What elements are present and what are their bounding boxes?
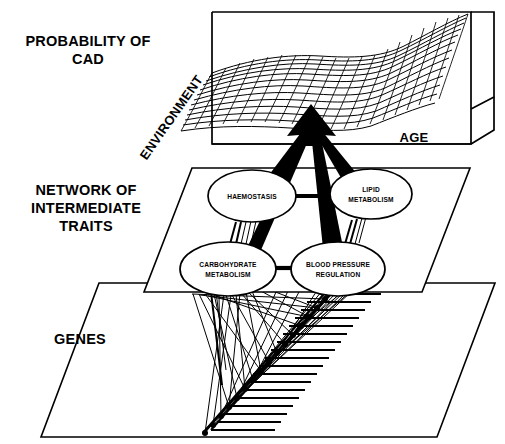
tier-label-network-line3: TRAITS	[59, 218, 113, 234]
figure-root: HAEMOSTASIS LIPID METABOLISM CARBOHYDRAT…	[0, 0, 505, 444]
tier-label-probability-line1: PROBABILITY OF	[26, 33, 151, 49]
axis-label-age: AGE	[399, 130, 428, 145]
trait-node-lipid-metabolism[interactable]: LIPID METABOLISM	[330, 169, 412, 219]
trait-ellipse[interactable]	[291, 242, 385, 296]
trait-label-carbohydrate-line1: CARBOHYDRATE	[199, 261, 257, 268]
trait-label-lipid-line2: METABOLISM	[348, 196, 394, 203]
trait-ellipse[interactable]	[180, 242, 276, 296]
trait-label-bloodpressure-line1: BLOOD PRESSURE	[306, 261, 370, 268]
tier-label-probability: PROBABILITY OF CAD	[26, 33, 151, 67]
tier-label-genes-line1: GENES	[54, 331, 106, 347]
trait-node-carbohydrate-metabolism[interactable]: CARBOHYDRATE METABOLISM	[180, 242, 276, 296]
tier-label-genes: GENES	[54, 331, 106, 347]
tier-label-probability-line2: CAD	[72, 51, 104, 67]
surface-frame-right-depth	[471, 12, 494, 109]
mesh-col	[439, 14, 468, 99]
tier-label-network-line2: INTERMEDIATE	[31, 200, 141, 216]
surface-mesh-columns	[181, 14, 468, 131]
trait-label-haemostasis: HAEMOSTASIS	[227, 193, 277, 200]
mesh-row	[209, 18, 466, 77]
tier-label-network-line1: NETWORK OF	[35, 182, 136, 198]
mesh-row	[185, 85, 440, 120]
trait-node-blood-pressure-regulation[interactable]: BLOOD PRESSURE REGULATION	[291, 242, 385, 296]
trait-node-haemostasis[interactable]: HAEMOSTASIS	[208, 170, 296, 222]
mesh-col	[251, 55, 282, 122]
surface-frame-right-base	[471, 97, 494, 144]
trait-label-bloodpressure-line2: REGULATION	[316, 271, 361, 278]
axis-label-environment: ENVIRONMENT	[137, 72, 206, 162]
mesh-col	[265, 55, 296, 122]
tier-label-network: NETWORK OF INTERMEDIATE TRAITS	[31, 182, 141, 234]
multilevel-cad-diagram: HAEMOSTASIS LIPID METABOLISM CARBOHYDRAT…	[0, 0, 505, 444]
trait-label-carbohydrate-line2: METABOLISM	[205, 271, 251, 278]
trait-label-lipid-line1: LIPID	[362, 186, 380, 193]
trait-ellipse[interactable]	[330, 169, 412, 219]
mesh-row	[206, 23, 464, 81]
mesh-col	[318, 58, 349, 128]
mesh-col	[331, 57, 362, 129]
